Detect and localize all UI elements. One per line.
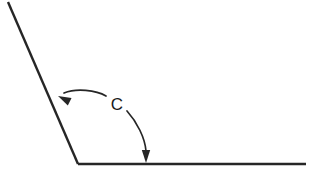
angle-label-c: C (111, 95, 123, 114)
angle-diagram-svg: C (0, 0, 317, 178)
angle-diagram-canvas: C (0, 0, 317, 178)
diagram-background (0, 0, 317, 178)
